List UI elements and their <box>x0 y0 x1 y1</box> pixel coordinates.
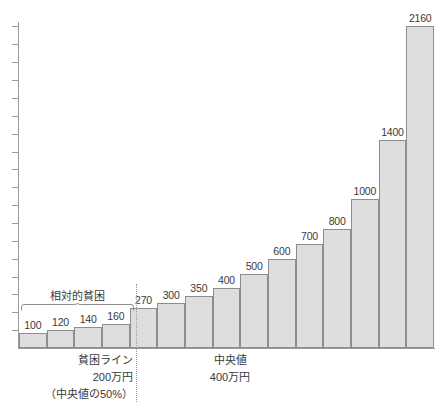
poverty-line-divider <box>136 284 137 402</box>
relative-poverty-label: 相対的貧困 <box>21 287 134 303</box>
bar <box>351 199 379 348</box>
relative-poverty-bracket <box>21 303 134 311</box>
bar <box>74 327 102 348</box>
bar <box>240 274 268 348</box>
bar-value-label: 2160 <box>400 12 440 24</box>
bar <box>47 330 75 348</box>
bar <box>406 26 434 348</box>
bar <box>296 244 324 348</box>
bar <box>268 259 296 348</box>
x-axis-line <box>18 348 435 349</box>
bar <box>102 324 130 348</box>
poverty-line-percent: （中央値の50%） <box>0 386 133 403</box>
poverty-line-title: 貧困ライン <box>0 352 133 369</box>
bar <box>213 288 241 348</box>
median-title: 中央値 <box>160 352 300 369</box>
bar <box>157 303 185 348</box>
bar <box>130 308 158 348</box>
bars-layer: 1001201401602703003504005006007008001000… <box>0 0 445 408</box>
median-amount: 400万円 <box>160 369 300 386</box>
bar <box>379 140 407 348</box>
bar <box>19 333 47 348</box>
bar <box>323 229 351 348</box>
bar <box>185 296 213 348</box>
poverty-line-note: 貧困ライン 200万円 （中央値の50%） <box>0 352 133 403</box>
relative-poverty-bar-chart: 1001201401602703003504005006007008001000… <box>0 0 445 408</box>
median-note: 中央値 400万円 <box>160 352 300 386</box>
poverty-line-amount: 200万円 <box>0 369 133 386</box>
